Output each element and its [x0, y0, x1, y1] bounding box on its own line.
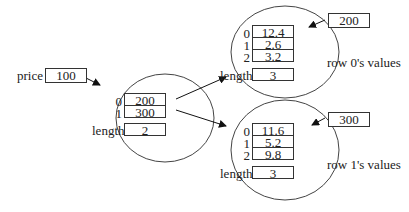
price-label: price [17, 69, 43, 82]
outer-array-ellipse [116, 74, 214, 162]
ref200-to-row0-arrow [176, 77, 226, 99]
ref300-to-row1-arrow [176, 110, 226, 126]
row0-length-box: 3 [252, 68, 294, 81]
row0-caption: row 0's values [327, 56, 401, 69]
row1-length-box: 3 [252, 166, 294, 179]
row1-cell-2: 9.8 [252, 147, 294, 160]
row1-length-label: length [220, 167, 253, 180]
diagram-lines [0, 0, 409, 212]
row0-ref-box: 200 [328, 13, 370, 28]
row1-index-2: 2 [240, 149, 250, 162]
outer-length-box: 2 [124, 123, 166, 136]
outer-cell-1: 300 [124, 105, 166, 118]
price-arrow [86, 78, 100, 85]
row0-index-2: 2 [240, 51, 250, 64]
outer-length-label: length [92, 124, 125, 137]
price-value-box: 100 [45, 68, 87, 83]
row1-ref-box: 300 [328, 112, 370, 127]
row1-ref-arrow [312, 118, 325, 125]
row0-cell-2: 3.2 [252, 49, 294, 62]
row1-caption: row 1's values [327, 158, 401, 171]
outer-index-1: 1 [112, 107, 122, 120]
row0-length-label: length [220, 69, 253, 82]
row0-ref-arrow [309, 20, 325, 27]
